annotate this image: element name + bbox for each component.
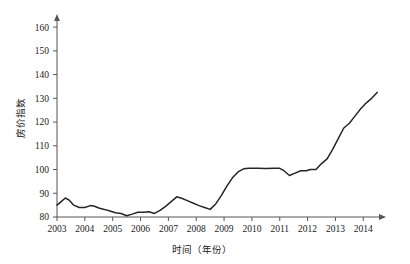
x-tick-label: 2013	[326, 224, 345, 234]
y-tick-labels: 8090100110120130140150160	[35, 23, 50, 223]
y-axis-arrowhead	[54, 14, 60, 21]
y-tick-marks	[53, 27, 57, 217]
y-tick-label: 100	[35, 165, 50, 175]
x-tick-label: 2007	[159, 224, 178, 234]
x-tick-labels: 2003200420052006200720082009201020112012…	[48, 224, 374, 234]
x-tick-label: 2004	[75, 224, 94, 234]
y-tick-label: 120	[35, 117, 50, 127]
y-tick-label: 80	[40, 212, 50, 222]
x-axis-arrowhead	[379, 214, 386, 220]
y-tick-label: 130	[35, 94, 50, 104]
x-tick-label: 2011	[270, 224, 289, 234]
y-tick-label: 90	[40, 189, 50, 199]
x-axis-title: 时间（年份）	[172, 244, 232, 255]
y-tick-label: 150	[35, 46, 50, 56]
x-tick-label: 2003	[48, 224, 67, 234]
x-tick-label: 2009	[215, 224, 234, 234]
x-tick-label: 2012	[298, 224, 317, 234]
x-tick-label: 2010	[242, 224, 261, 234]
x-axis: 2003200420052006200720082009201020112012…	[48, 214, 387, 234]
data-series-line	[57, 92, 377, 215]
house-price-index-line-chart: 8090100110120130140150160 20032004200520…	[0, 0, 410, 264]
chart-figure: 8090100110120130140150160 20032004200520…	[0, 0, 410, 264]
x-tick-label: 2006	[131, 224, 150, 234]
y-axis-title: 房价指数	[15, 98, 26, 138]
y-tick-label: 160	[35, 23, 50, 33]
x-tick-label: 2008	[187, 224, 206, 234]
y-tick-label: 140	[35, 70, 50, 80]
x-tick-label: 2014	[354, 224, 373, 234]
x-tick-label: 2005	[103, 224, 122, 234]
y-axis: 8090100110120130140150160	[35, 14, 60, 222]
x-tick-marks	[57, 217, 363, 221]
y-tick-label: 110	[35, 141, 49, 151]
